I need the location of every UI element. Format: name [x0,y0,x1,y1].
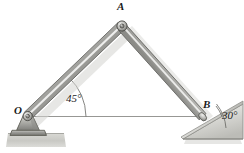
mechanism-figure: A O B 45° 30° [0,0,244,153]
member-AB-highlight [122,26,204,117]
member-AB [116,21,213,122]
figure-canvas [0,0,244,153]
label-point-O: O [14,105,22,116]
pin-joint-A [117,21,127,31]
label-angle-45: 45° [66,93,81,104]
label-point-B: B [203,99,210,110]
label-point-A: A [117,1,124,12]
member-OA [22,20,132,127]
support-baseplate [10,130,47,135]
label-angle-30: 30° [222,110,237,121]
